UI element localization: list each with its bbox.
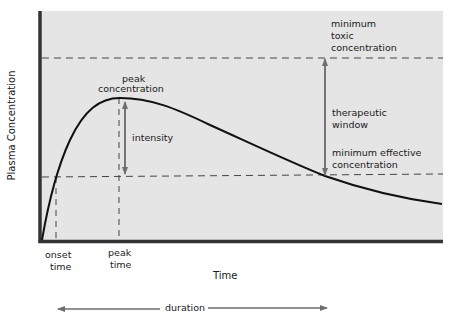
- x-axis-label: Time: [213, 270, 237, 281]
- peak-time-label-1: peak: [108, 247, 131, 258]
- onset-time-label-1: onset: [45, 249, 71, 260]
- therapeutic-window-label-1: therapeutic: [332, 107, 387, 118]
- peak-time-label-2: time: [110, 259, 131, 270]
- peak-concentration-label-2: concentration: [98, 83, 164, 94]
- minimum-effective-label-1: minimum effective: [332, 147, 421, 158]
- therapeutic-window-label-2: window: [332, 119, 368, 130]
- y-axis-label: Plasma Concentration: [6, 71, 17, 181]
- minimum-toxic-label-2: toxic: [331, 30, 354, 41]
- duration-label: duration: [165, 302, 205, 313]
- minimum-toxic-label-1: minimum: [331, 18, 376, 29]
- intensity-label: intensity: [132, 132, 173, 143]
- minimum-effective-label-2: concentration: [332, 159, 398, 170]
- minimum-toxic-label-3: concentration: [331, 42, 397, 53]
- onset-time-label-2: time: [50, 261, 71, 272]
